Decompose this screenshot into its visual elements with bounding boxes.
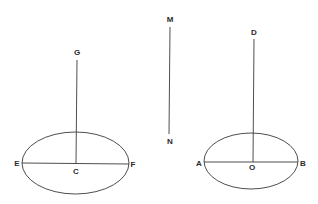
right-ellipse-figure: D A O B [196, 28, 306, 189]
left-ellipse-figure: G E C F [14, 48, 135, 194]
label-d: D [251, 28, 257, 37]
ellipse-abo [204, 133, 298, 189]
label-m: M [167, 15, 174, 24]
label-b: B [300, 159, 306, 168]
label-n: N [167, 137, 173, 146]
axis-gc [76, 60, 77, 163]
axis-do [253, 39, 254, 162]
label-a: A [196, 159, 202, 168]
segment-mn: M N [167, 15, 174, 146]
label-e: E [14, 159, 20, 168]
line-mn [169, 27, 170, 134]
label-o: O [249, 163, 255, 172]
geometry-diagram: G E C F M N D A O B [0, 0, 318, 204]
label-f: F [131, 160, 136, 169]
axis-ef [22, 163, 129, 164]
label-g: G [74, 48, 80, 57]
label-c: C [73, 167, 79, 176]
